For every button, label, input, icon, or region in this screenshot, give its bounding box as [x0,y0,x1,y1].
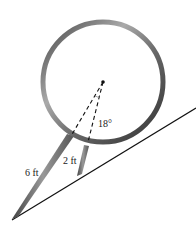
short-leg [77,145,89,176]
long-leg-label: 6 ft [25,168,39,178]
dashed-radius-short [88,82,103,142]
angle-label: 18° [98,119,112,129]
diagram-canvas [0,0,196,228]
short-leg-label: 2 ft [63,156,77,166]
long-leg [12,134,74,219]
